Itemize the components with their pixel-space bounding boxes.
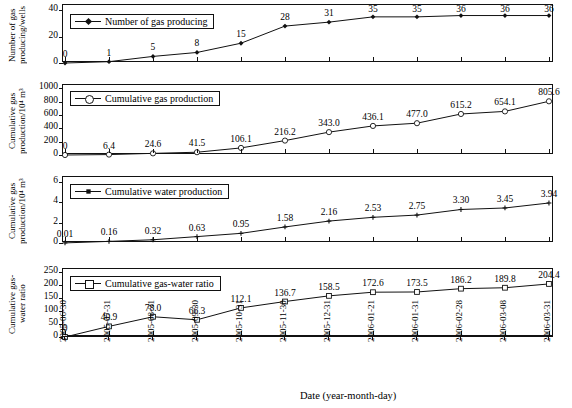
y-tick-labels: 050100150200250 — [34, 268, 60, 340]
data-point-label: 615.2 — [450, 100, 471, 110]
data-point-label: 36 — [544, 4, 554, 14]
y-axis-label: Number of gas producing/wells — [0, 4, 34, 66]
data-point-label: 158.5 — [318, 282, 339, 292]
y-tick-mark — [59, 243, 63, 244]
x-tick-mark — [373, 149, 374, 153]
x-tick-mark — [549, 237, 550, 241]
legend-cumulative-water: Cumulative water production — [70, 184, 229, 199]
x-axis-title: Date (year-month-day) — [300, 390, 396, 401]
x-tick-mark — [241, 237, 242, 241]
y-axis-label: Cumulative gas production/10⁴ m³ — [0, 84, 34, 158]
data-point-label: 3.94 — [541, 189, 558, 199]
y-tick-labels: 02040 — [34, 4, 60, 66]
legend-label: Cumulative gas-water ratio — [105, 278, 214, 289]
x-tick-mark — [241, 149, 242, 153]
data-point-label: 15 — [236, 29, 246, 39]
data-point-label: 216.2 — [274, 127, 295, 137]
x-tick-mark — [285, 237, 286, 241]
y-axis-label: Cumulative gas-water ratio — [0, 268, 34, 340]
x-tick-mark — [197, 149, 198, 153]
legend-gas-water-ratio: Cumulative gas-water ratio — [70, 276, 221, 291]
plot-area: 01581528313535363636 — [62, 4, 553, 62]
legend-gas-wells: Number of gas producing — [70, 14, 214, 29]
x-tick-mark — [549, 149, 550, 153]
figure-root: Number of gas producing/wells 02040 0158… — [0, 0, 572, 408]
data-point-label: 35 — [368, 4, 378, 14]
data-point-label: 3.45 — [497, 194, 514, 204]
data-point-label: 5 — [151, 42, 156, 52]
y-tick-label: 50 — [49, 318, 59, 328]
x-tick-mark — [417, 57, 418, 61]
data-point-label: 343.0 — [318, 118, 339, 128]
y-tick-label: 1000 — [39, 83, 58, 93]
y-tick-label: 0 — [53, 57, 58, 67]
data-point-label: 136.7 — [274, 288, 295, 298]
data-point-label: 2.16 — [321, 207, 338, 217]
legend-marker-circle-icon — [75, 94, 101, 103]
data-point-label: 3.30 — [453, 195, 470, 205]
x-tick-mark — [461, 57, 462, 61]
chart-panel-cumulative-water: Cumulative gas production/10⁴ m³ 0246 0.… — [0, 176, 572, 246]
data-point-label: 172.6 — [362, 278, 383, 288]
x-tick-mark — [109, 57, 110, 61]
x-tick-mark — [285, 57, 286, 61]
y-tick-label: 600 — [44, 109, 58, 119]
x-tick-mark — [153, 57, 154, 61]
legend-marker-plus-icon — [75, 187, 101, 196]
data-point-label: 436.1 — [362, 112, 383, 122]
y-tick-label: 800 — [44, 96, 58, 106]
y-tick-label: 200 — [44, 136, 58, 146]
data-point-label: 41.5 — [189, 138, 206, 148]
x-tick-mark — [329, 57, 330, 61]
chart-panel-gas-wells: Number of gas producing/wells 02040 0158… — [0, 4, 572, 66]
y-tick-labels: 02004006008001000 — [34, 84, 60, 158]
data-point-label: 0.95 — [233, 219, 250, 229]
x-tick-mark — [329, 149, 330, 153]
y-tick-label: 0 — [53, 149, 58, 159]
x-tick-mark — [373, 237, 374, 241]
y-tick-label: 150 — [44, 292, 58, 302]
y-tick-label: 200 — [44, 279, 58, 289]
data-point-label: 2.75 — [409, 201, 426, 211]
y-tick-label: 100 — [44, 305, 58, 315]
y-tick-label: 4 — [53, 197, 58, 207]
legend-label: Number of gas producing — [105, 16, 207, 27]
y-axis-label: Cumulative gas production/10⁴ m³ — [0, 176, 34, 246]
y-tick-label: 400 — [44, 123, 58, 133]
data-point-label: 477.0 — [406, 109, 427, 119]
data-point-label: 189.8 — [494, 274, 515, 284]
x-tick-mark — [109, 149, 110, 153]
chart-panel-cumulative-gas: Cumulative gas production/10⁴ m³ 0200400… — [0, 84, 572, 158]
data-point-label: 2.53 — [365, 203, 382, 213]
x-tick-mark — [505, 149, 506, 153]
data-point-label: 35 — [412, 4, 422, 14]
x-tick-mark — [505, 237, 506, 241]
y-tick-label: 20 — [49, 31, 59, 41]
data-point-label: 186.2 — [450, 275, 471, 285]
data-point-label: 8 — [195, 38, 200, 48]
y-tick-mark — [59, 63, 63, 64]
y-tick-label: 40 — [49, 5, 59, 15]
y-tick-label: 2 — [53, 217, 58, 227]
data-point-label: 0.63 — [189, 223, 206, 233]
legend-marker-diamond-icon — [75, 17, 101, 26]
x-tick-mark — [329, 237, 330, 241]
x-tick-mark — [417, 149, 418, 153]
data-point-label: 805.6 — [538, 87, 559, 97]
x-tick-mark — [197, 57, 198, 61]
x-tick-mark — [65, 149, 66, 153]
legend-marker-square-icon — [75, 279, 101, 288]
data-point-label: 31 — [324, 8, 334, 18]
x-tick-mark — [153, 237, 154, 241]
y-tick-label: 250 — [44, 266, 58, 276]
x-tick-mark — [285, 149, 286, 153]
legend-cumulative-gas: Cumulative gas production — [70, 91, 220, 106]
x-tick-mark — [417, 237, 418, 241]
data-point-label: 36 — [500, 4, 510, 14]
data-point-label: 28 — [280, 12, 290, 22]
x-axis-line — [62, 336, 553, 337]
data-point-label: 36 — [456, 4, 466, 14]
x-tick-mark — [65, 237, 66, 241]
data-point-label: 654.1 — [494, 97, 515, 107]
x-tick-mark — [461, 149, 462, 153]
